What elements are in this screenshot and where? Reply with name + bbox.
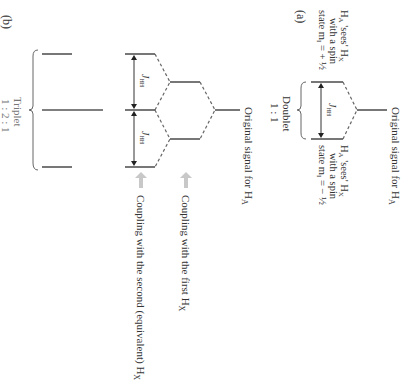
arrow-up-icon	[135, 172, 147, 188]
panel-b-multiplet-ratio: 1 : 2 : 1	[0, 99, 12, 133]
panel-b-second-coupling-text: Coupling with the second (equivalent) HX	[132, 195, 147, 380]
panel-b-j-label-lower: JHH	[139, 131, 151, 145]
arrow-head-icon	[131, 104, 137, 109]
arrow-head-icon	[318, 83, 324, 88]
panel-b-j-label-upper: JHH	[139, 74, 151, 88]
panel-b-second-split-lower-dashes	[155, 110, 170, 167]
panel-b-first-coupling-text: Coupling with the first HX	[177, 195, 192, 312]
splitting-diagram: (a) Original signal for HA JHH Doublet 1…	[0, 0, 413, 387]
panel-a-lower-state-text: HA 'sees' HX with a spin state mI = − ½	[315, 145, 350, 205]
panel-a-multiplet-ratio: 1 : 1	[269, 103, 281, 123]
arrow-head-icon	[131, 111, 137, 116]
panel-a-upper-state-text: HA 'sees' HX with a spin state mI = + ½	[315, 10, 350, 70]
arrow-head-icon	[318, 133, 324, 138]
panel-b-label: (b)	[0, 15, 14, 29]
arrow-head-icon	[131, 161, 137, 166]
panel-b-first-split-dashes	[200, 82, 215, 139]
panel-a: (a) Original signal for HA JHH Doublet 1…	[269, 10, 402, 205]
panel-b-original-label: Original signal for HA	[240, 107, 255, 205]
panel-b-brace	[29, 50, 38, 170]
panel-a-j-label: JHH	[326, 103, 338, 117]
svg-text:state mI = + ½: state mI = + ½	[315, 10, 328, 70]
arrow-head-icon	[131, 55, 137, 60]
panel-a-multiplet-name: Doublet	[281, 96, 293, 131]
panel-a-label: (a)	[294, 10, 308, 23]
panel-b-multiplet-name: Triplet	[12, 97, 24, 127]
panel-a-split-dashes	[343, 82, 357, 139]
panel-a-original-label: Original signal for HA	[387, 107, 402, 205]
panel-b-second-split-upper-dashes	[155, 54, 170, 110]
arrow-up-icon	[180, 172, 192, 188]
svg-text:with a spin: with a spin	[328, 153, 339, 200]
panel-b: (b) Original signal for HA JHH JHH Tripl…	[0, 15, 255, 380]
panel-a-brace	[297, 82, 306, 139]
svg-text:with a spin: with a spin	[328, 18, 339, 65]
svg-text:state mI = − ½: state mI = − ½	[315, 145, 328, 205]
